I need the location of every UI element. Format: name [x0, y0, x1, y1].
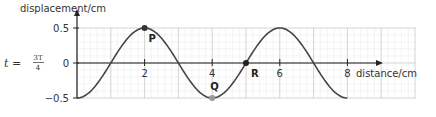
time-denominator: 4 — [36, 64, 41, 72]
x-tick-label: 6 — [277, 68, 283, 79]
x-tick-label: 2 — [141, 68, 147, 79]
y-tick-label: 0 — [63, 58, 69, 69]
axes — [74, 9, 383, 98]
y-tick-label: 0.5 — [53, 23, 69, 34]
point-p-marker — [142, 25, 148, 31]
time-annotation: t = 3T 4 — [4, 54, 44, 72]
x-tick-label: 8 — [344, 68, 350, 79]
point-r-marker — [243, 60, 249, 66]
y-axis-label: displacement/cm — [20, 3, 106, 14]
point-q-label: Q — [210, 81, 219, 92]
point-r-label: R — [251, 68, 259, 79]
x-axis-label: distance/cm — [356, 68, 417, 79]
point-p-label: P — [149, 33, 156, 44]
time-numerator: 3T — [33, 54, 42, 62]
wave-chart: 24680.50−0.5 PQR displacement/cm distanc… — [0, 0, 436, 117]
x-tick-label: 4 — [209, 68, 215, 79]
y-tick-label: −0.5 — [45, 93, 69, 104]
point-q-marker — [209, 95, 215, 101]
time-prefix: t = — [4, 57, 21, 70]
x-axis-arrow — [376, 60, 383, 66]
